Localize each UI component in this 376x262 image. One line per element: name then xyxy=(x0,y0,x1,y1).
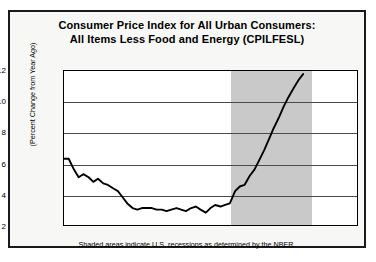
y-axis-tick-label: 2 xyxy=(0,222,6,231)
chart-footnote: Shaded areas indicate U.S. recessions as… xyxy=(10,240,364,249)
chart-page: Consumer Price Index for All Urban Consu… xyxy=(0,0,376,262)
plot-canvas xyxy=(63,70,358,226)
plot-area: 197119721973197419751976 24681012 xyxy=(63,70,358,226)
y-axis-tick-label: 4 xyxy=(0,190,6,199)
data-line-layer xyxy=(64,71,357,225)
chart-title-line-2: All Items Less Food and Energy (CPILFESL… xyxy=(10,32,364,46)
y-axis-tick-label: 10 xyxy=(0,97,6,106)
y-axis-tick-label: 12 xyxy=(0,66,6,75)
y-axis-tick-label: 8 xyxy=(0,128,6,137)
chart-title-line-1: Consumer Price Index for All Urban Consu… xyxy=(58,19,315,31)
chart-title: Consumer Price Index for All Urban Consu… xyxy=(10,18,364,46)
chart-frame: Consumer Price Index for All Urban Consu… xyxy=(8,10,366,248)
y-axis-tick-label: 6 xyxy=(0,159,6,168)
data-series-line xyxy=(64,74,303,213)
y-axis-label: (Percent Change from Year Ago) xyxy=(28,35,37,155)
